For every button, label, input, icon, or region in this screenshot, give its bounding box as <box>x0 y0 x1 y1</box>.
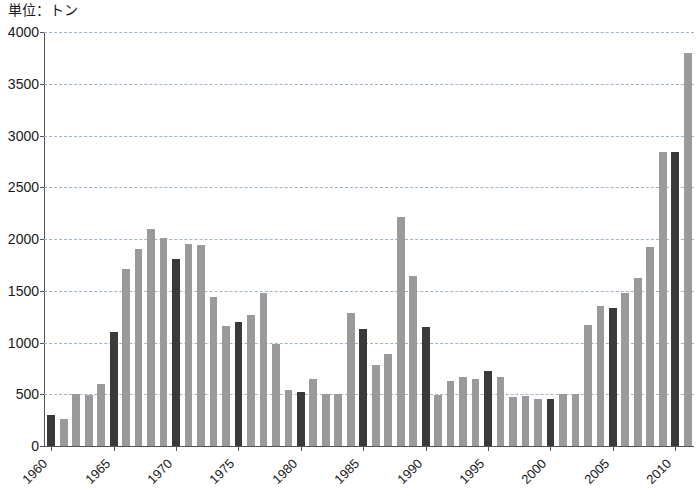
bar <box>110 332 118 446</box>
bar <box>659 152 667 446</box>
x-tick-mark <box>114 447 115 451</box>
bar-chart: 単位：トン 05001000150020002500300035004000 1… <box>0 0 696 496</box>
y-tick-mark <box>40 187 44 188</box>
y-tick-label: 1000 <box>8 336 39 350</box>
bars-layer <box>45 32 694 446</box>
bar <box>634 278 642 446</box>
x-tick-label: 1960 <box>20 457 50 487</box>
bar <box>85 395 93 446</box>
bar <box>397 217 405 446</box>
y-tick-mark <box>40 84 44 85</box>
plot-area: 05001000150020002500300035004000 <box>44 32 694 447</box>
x-axis-ticks: 1960196519701975198019851990199520002005… <box>44 447 694 496</box>
bar <box>621 293 629 446</box>
x-tick-mark <box>176 447 177 451</box>
bar <box>534 399 542 446</box>
x-tick-mark <box>613 447 614 451</box>
bar <box>609 308 617 446</box>
y-tick-mark <box>40 136 44 137</box>
bar <box>285 390 293 446</box>
bar <box>646 247 654 446</box>
bar <box>359 329 367 446</box>
bar <box>135 249 143 446</box>
bar <box>484 371 492 446</box>
bar <box>509 397 517 446</box>
x-tick-mark <box>238 447 239 451</box>
x-tick-label: 2010 <box>644 457 674 487</box>
x-tick-label: 1985 <box>332 457 362 487</box>
bar <box>671 152 679 446</box>
bar <box>60 419 68 446</box>
bar <box>172 259 180 446</box>
bar <box>309 379 317 446</box>
bar <box>559 394 567 446</box>
y-tick-label: 4000 <box>8 25 39 39</box>
x-tick-mark <box>51 447 52 451</box>
y-tick-label: 500 <box>16 387 39 401</box>
bar <box>72 394 80 446</box>
y-tick-label: 3000 <box>8 129 39 143</box>
x-tick-mark <box>675 447 676 451</box>
y-tick-mark <box>40 343 44 344</box>
y-tick-mark <box>40 32 44 33</box>
y-tick-label: 2500 <box>8 180 39 194</box>
x-tick-mark <box>363 447 364 451</box>
bar <box>185 244 193 446</box>
bar <box>409 276 417 446</box>
bar <box>160 238 168 446</box>
bar <box>422 327 430 446</box>
bar <box>210 297 218 446</box>
bar <box>147 229 155 446</box>
y-tick-mark <box>40 394 44 395</box>
bar <box>597 306 605 446</box>
bar <box>47 415 55 446</box>
x-tick-label: 2005 <box>582 457 612 487</box>
bar <box>547 399 555 446</box>
y-tick-mark <box>40 291 44 292</box>
x-tick-label: 1980 <box>270 457 300 487</box>
y-tick-label: 1500 <box>8 284 39 298</box>
bar <box>297 392 305 446</box>
bar <box>222 326 230 446</box>
y-tick-label: 2000 <box>8 232 39 246</box>
x-tick-label: 1995 <box>457 457 487 487</box>
bar <box>372 365 380 446</box>
bar <box>235 322 243 446</box>
x-tick-mark <box>488 447 489 451</box>
bar <box>247 315 255 446</box>
unit-caption: 単位：トン <box>8 2 78 18</box>
x-tick-label: 1990 <box>395 457 425 487</box>
bar <box>434 395 442 446</box>
x-tick-mark <box>550 447 551 451</box>
x-tick-label: 1970 <box>145 457 175 487</box>
bar <box>97 384 105 446</box>
x-tick-mark <box>426 447 427 451</box>
bar <box>384 354 392 446</box>
bar <box>522 396 530 446</box>
bar <box>572 394 580 446</box>
x-tick-label: 2000 <box>519 457 549 487</box>
bar <box>122 269 130 446</box>
bar <box>472 379 480 446</box>
bar <box>322 394 330 446</box>
x-tick-label: 1975 <box>207 457 237 487</box>
bar <box>447 381 455 446</box>
x-tick-label: 1965 <box>83 457 113 487</box>
bar <box>272 344 280 446</box>
y-tick-label: 3500 <box>8 77 39 91</box>
x-tick-mark <box>301 447 302 451</box>
bar <box>459 377 467 446</box>
y-tick-label: 0 <box>31 439 39 453</box>
bar <box>584 325 592 446</box>
bar <box>497 377 505 446</box>
bar <box>684 53 692 446</box>
bar <box>347 313 355 447</box>
bar <box>260 293 268 446</box>
y-tick-mark <box>40 239 44 240</box>
bar <box>197 245 205 446</box>
bar <box>334 394 342 446</box>
